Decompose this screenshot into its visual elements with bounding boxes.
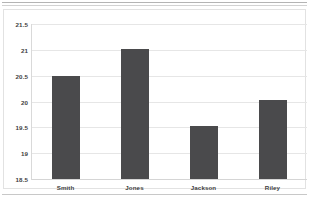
y-axis-tick-label: 19.5 [16, 124, 28, 131]
x-axis-category-labels: SmithJonesJacksonRiley [31, 184, 307, 196]
chart-frame: 21.52120.52019.51918.5 SmithJonesJackson… [3, 9, 306, 189]
x-axis-category-label: Jackson [191, 184, 216, 191]
document-rule-top-secondary [2, 5, 307, 6]
y-axis-tick-label: 21.5 [16, 21, 28, 28]
x-axis-category-label: Riley [265, 184, 280, 191]
y-axis-tick-label: 21 [21, 46, 28, 53]
gridline [31, 179, 307, 180]
bar [52, 76, 80, 179]
bar [259, 100, 287, 179]
y-axis-tick-label: 20 [21, 98, 28, 105]
bar-series [31, 24, 307, 179]
document-rule-top [2, 2, 307, 3]
y-axis-tick-label: 20.5 [16, 72, 28, 79]
chart-screenshot: 21.52120.52019.51918.5 SmithJonesJackson… [0, 0, 309, 197]
x-axis-category-label: Jones [125, 184, 143, 191]
bar [190, 126, 218, 179]
bar [121, 49, 149, 179]
x-axis-category-label: Smith [57, 184, 75, 191]
y-axis-tick-label: 18.5 [16, 176, 28, 183]
y-axis-tick-label: 19 [21, 150, 28, 157]
y-axis-tick-labels: 21.52120.52019.51918.5 [4, 24, 28, 179]
